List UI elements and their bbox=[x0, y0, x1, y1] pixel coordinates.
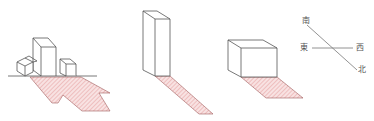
compass bbox=[307, 25, 357, 70]
cluster-shadow bbox=[30, 77, 110, 111]
tower-shadow bbox=[155, 76, 213, 114]
compass-label-west: 西 bbox=[356, 44, 364, 52]
figure-building-cluster bbox=[8, 38, 110, 111]
compass-south-north-axis bbox=[307, 25, 357, 70]
shadow-illustration bbox=[0, 0, 374, 121]
figure-tall-tower bbox=[143, 11, 213, 114]
cube-shadow bbox=[241, 77, 303, 98]
compass-label-south: 南 bbox=[302, 17, 310, 25]
compass-label-north: 北 bbox=[358, 66, 366, 74]
compass-label-east: 東 bbox=[300, 44, 308, 52]
figure-cube bbox=[228, 40, 303, 98]
